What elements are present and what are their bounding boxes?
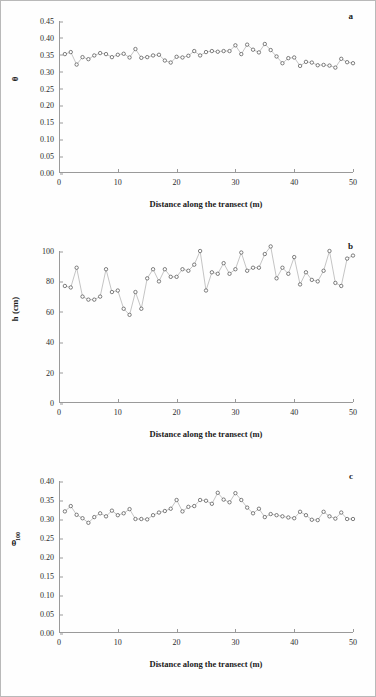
data-point: [169, 507, 172, 510]
data-point: [175, 275, 178, 278]
data-point: [169, 275, 172, 278]
panel-a-y-tick-label: 0.25: [40, 84, 59, 93]
panel-c-x-tick-label: 10: [114, 633, 122, 647]
data-point: [304, 514, 307, 517]
data-point: [275, 514, 278, 517]
data-point: [116, 53, 119, 56]
data-point: [128, 56, 131, 59]
panel-c-y-tick-label: 0.10: [40, 591, 59, 600]
panel-b-x-tick-label: 0: [57, 403, 61, 417]
data-point: [163, 509, 166, 512]
data-point: [328, 249, 331, 252]
data-point: [140, 517, 143, 520]
data-point: [63, 510, 66, 513]
data-point: [310, 61, 313, 64]
data-point: [245, 269, 248, 272]
data-point: [298, 510, 301, 513]
data-point: [257, 266, 260, 269]
data-point: [269, 48, 272, 51]
data-point: [110, 55, 113, 58]
panel-b-x-tick-label: 10: [114, 403, 122, 417]
data-point: [351, 254, 354, 257]
panel-c-y-tick-label: 0.40: [40, 477, 59, 486]
data-point: [210, 49, 213, 52]
figure-container: a θ 0.000.050.100.150.200.250.300.350.40…: [0, 0, 376, 697]
data-point: [322, 63, 325, 66]
panel-c-y-label-base: θ: [12, 538, 17, 548]
data-point: [245, 43, 248, 46]
panel-a-y-tick-label: 0.45: [40, 17, 59, 26]
panel-a-y-tick-label: 0.15: [40, 118, 59, 127]
data-point: [210, 502, 213, 505]
data-point: [334, 517, 337, 520]
data-point: [351, 62, 354, 65]
data-point: [210, 271, 213, 274]
data-point: [75, 513, 78, 516]
data-point: [193, 263, 196, 266]
data-point: [110, 509, 113, 512]
panel-c-y-tick-label: 0.25: [40, 534, 59, 543]
data-point: [216, 491, 219, 494]
data-point: [69, 504, 72, 507]
data-point: [345, 61, 348, 64]
data-point: [81, 295, 84, 298]
data-point: [345, 257, 348, 260]
panel-b-plot-area: 020406080100 01020304050: [59, 251, 353, 403]
data-point: [293, 517, 296, 520]
panel-b-x-tick-label: 40: [290, 403, 298, 417]
data-point: [316, 518, 319, 521]
data-point: [351, 517, 354, 520]
data-point: [63, 52, 66, 55]
data-point: [128, 313, 131, 316]
panel-b-connector-line: [65, 246, 353, 314]
panel-c-x-tick-label: 20: [173, 633, 181, 647]
panel-c-y-axis-label: θ100: [7, 463, 23, 615]
panel-b-y-axis-label: h (cm): [7, 233, 23, 385]
panel-a-x-tick-label: 50: [349, 173, 357, 187]
panel-b-x-tick-label: 50: [349, 403, 357, 417]
panel-c-connector-line: [65, 493, 353, 523]
panel-a-x-axis-label: Distance along the transect (m): [59, 199, 353, 209]
data-point: [122, 307, 125, 310]
data-point: [198, 249, 201, 252]
data-point: [281, 62, 284, 65]
data-point: [116, 289, 119, 292]
data-point: [122, 52, 125, 55]
panel-b-y-tick-label: 60: [46, 307, 59, 316]
data-point: [234, 44, 237, 47]
data-point: [146, 277, 149, 280]
data-point: [87, 57, 90, 60]
panel-a-y-tick-label: 0.05: [40, 152, 59, 161]
data-point: [122, 512, 125, 515]
data-point: [151, 514, 154, 517]
panel-b-x-axis-label: Distance along the transect (m): [59, 429, 353, 439]
data-point: [304, 60, 307, 63]
data-point: [275, 277, 278, 280]
data-point: [204, 289, 207, 292]
data-point: [98, 51, 101, 54]
data-point: [187, 505, 190, 508]
data-point: [204, 50, 207, 53]
panel-b-y-tick-label: 40: [46, 338, 59, 347]
data-point: [93, 515, 96, 518]
data-point: [240, 52, 243, 55]
panel-a-y-tick-label: 0.35: [40, 50, 59, 59]
panel-c-x-axis-label: Distance along the transect (m): [59, 659, 353, 669]
data-point: [69, 50, 72, 53]
panel-c-y-tick-label: 0.35: [40, 496, 59, 505]
panel-b-series: [59, 251, 353, 403]
data-point: [193, 504, 196, 507]
data-point: [98, 295, 101, 298]
data-point: [198, 54, 201, 57]
data-point: [163, 59, 166, 62]
data-point: [298, 64, 301, 67]
panel-letter-b: b: [348, 241, 353, 251]
data-point: [234, 268, 237, 271]
data-point: [334, 66, 337, 69]
panel-c: c θ100 0.000.050.100.150.200.250.300.350…: [1, 463, 376, 695]
panel-b-y-tick-label: 20: [46, 368, 59, 377]
data-point: [281, 515, 284, 518]
data-point: [263, 252, 266, 255]
panel-b: b h (cm) 020406080100 01020304050 Distan…: [1, 233, 376, 465]
panel-a-x-tick-label: 10: [114, 173, 122, 187]
